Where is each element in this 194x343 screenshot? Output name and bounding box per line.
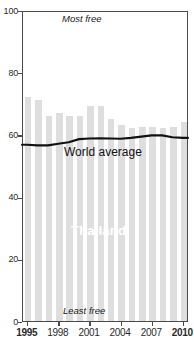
y-tick-label-0: 0 [0,318,18,327]
x-tick-label-2001: 2001 [78,328,99,338]
chart-title-clipped [0,0,194,9]
bar-2001 [87,106,93,321]
y-tick-mark-40 [18,198,22,199]
plot-area [22,11,188,322]
y-tick-label-60: 60 [0,131,18,140]
x-tick-mark-2010 [183,322,184,326]
x-tick-mark-2001 [89,322,90,326]
x-tick-mark-2004 [121,322,122,326]
x-tick-label-2010: 2010 [172,328,193,338]
bar-1995 [25,97,31,321]
bar-1998 [56,113,62,321]
bar-2009 [170,127,176,321]
annotation-least-free: Least free [63,306,105,316]
bar-2010 [181,122,187,321]
x-tick-label-2007: 2007 [141,328,162,338]
y-tick-mark-100 [18,11,22,12]
chart-container: 020406080100 199519982001200420072010 Mo… [0,0,194,343]
bar-1996 [35,100,41,321]
y-tick-mark-80 [18,73,22,74]
bar-2002 [98,106,104,321]
x-tick-label-2004: 2004 [110,328,131,338]
x-tick-label-1995: 1995 [16,328,37,338]
y-tick-mark-60 [18,135,22,136]
bar-series-thailand [23,12,187,321]
y-tick-label-80: 80 [0,69,18,78]
bar-1997 [46,116,52,321]
y-tick-mark-20 [18,260,22,261]
bar-2008 [160,128,166,321]
bar-2007 [149,127,155,321]
y-tick-label-20: 20 [0,255,18,264]
y-tick-label-40: 40 [0,193,18,202]
x-tick-mark-1995 [27,322,28,326]
annotation-country-thailand: Thailand [71,224,126,237]
x-tick-mark-1998 [58,322,59,326]
y-tick-mark-0 [18,322,22,323]
annotation-world-average: World average [64,146,142,158]
x-tick-label-1998: 1998 [47,328,68,338]
x-tick-mark-2007 [152,322,153,326]
y-tick-label-100: 100 [0,7,18,16]
annotation-most-free: Most free [62,14,102,24]
